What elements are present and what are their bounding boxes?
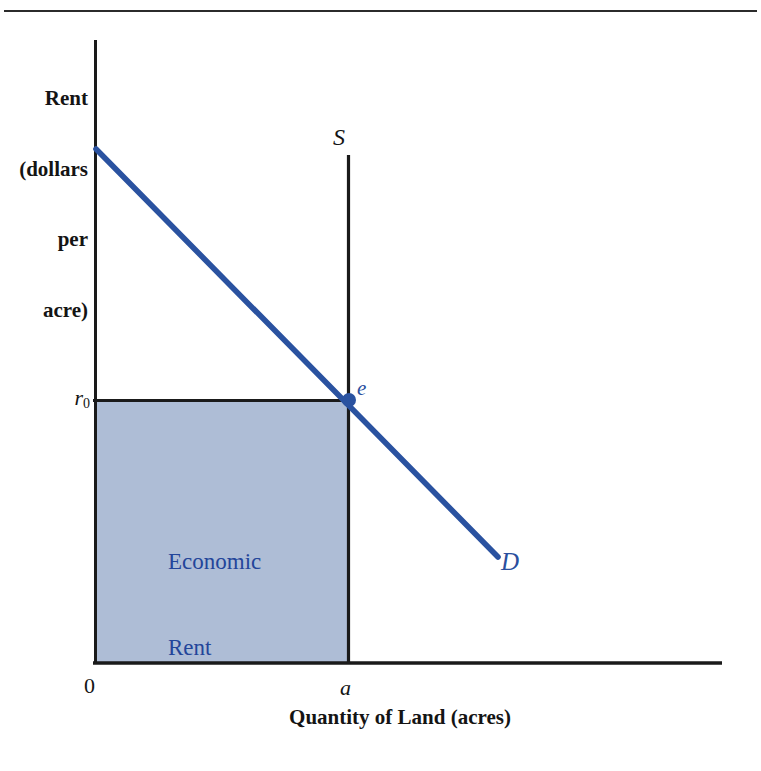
land-quantity-tick-label: a: [340, 676, 351, 701]
economic-rent-label-line-2: Rent: [168, 634, 261, 663]
y-axis-label: Rent (dollars per acre): [0, 40, 88, 369]
supply-curve-label: S: [333, 124, 345, 151]
origin-label: 0: [84, 674, 95, 699]
equilibrium-point-label: e: [357, 377, 366, 401]
rent-symbol: r: [74, 385, 83, 410]
chart-canvas: [0, 0, 761, 771]
economic-rent-label-line-1: Economic: [168, 548, 261, 577]
economic-rent-area-label: Economic Rent: [168, 490, 261, 720]
y-axis-label-line-4: acre): [0, 299, 88, 323]
demand-curve-label: D: [501, 548, 519, 576]
rent-subscript: 0: [83, 396, 90, 411]
y-axis-label-line-2: (dollars: [0, 158, 88, 182]
equilibrium-rent-tick-label: r0: [58, 386, 90, 412]
y-axis-label-line-3: per: [0, 228, 88, 252]
equilibrium-point-dot: [342, 393, 356, 407]
land-rent-figure: Rent (dollars per acre) Quantity of Land…: [0, 0, 761, 771]
y-axis-label-line-1: Rent: [0, 87, 88, 111]
